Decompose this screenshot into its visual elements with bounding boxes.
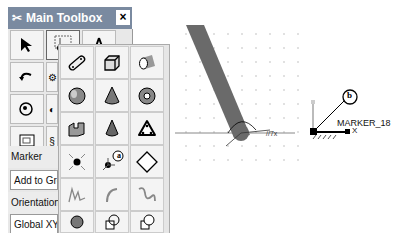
sphere-button[interactable]	[60, 79, 94, 112]
marker-x-label: X	[352, 126, 357, 135]
spline-button[interactable]	[130, 178, 164, 211]
marker-label: Marker	[8, 146, 58, 168]
marker-x-handle	[345, 129, 350, 134]
point-button[interactable]	[60, 145, 94, 178]
revolution-button[interactable]	[95, 112, 129, 145]
orientation-label: Orientation	[8, 192, 58, 214]
render-icon	[17, 99, 37, 119]
extrusion-button[interactable]	[60, 112, 94, 145]
view-button[interactable]: ◐	[46, 94, 58, 124]
marker-y-handle	[311, 100, 315, 104]
box-button[interactable]	[95, 46, 129, 79]
link-icon: ⚙	[48, 72, 57, 83]
render-button[interactable]	[10, 94, 44, 124]
box-icon	[101, 52, 123, 74]
select-arrow-icon	[18, 36, 36, 54]
ground-hatch	[313, 135, 336, 139]
polyline-icon	[66, 184, 88, 206]
spline-icon	[136, 184, 158, 206]
callout-a: a	[117, 151, 121, 160]
extrusion-icon	[66, 118, 88, 140]
plane-button[interactable]	[130, 145, 164, 178]
boolean-subtract-icon	[138, 213, 156, 231]
undo-icon	[17, 67, 37, 87]
add-to-group-select[interactable]: Add to Grou	[10, 170, 58, 190]
link-button[interactable]: ⚙	[46, 62, 58, 92]
marker-button[interactable]: a	[95, 145, 129, 178]
torus-button[interactable]	[130, 79, 164, 112]
polyline-button[interactable]	[60, 178, 94, 211]
cylinder-button[interactable]	[130, 46, 164, 79]
toolbox-titlebar[interactable]: ✂Main Toolbox ×	[8, 7, 132, 29]
link-geometry-button[interactable]	[60, 46, 94, 79]
plane-icon	[135, 150, 159, 174]
plate-icon	[136, 118, 158, 140]
boolean-subtract-button[interactable]	[130, 211, 164, 233]
boolean-intersect-button[interactable]	[95, 211, 129, 233]
point-icon	[66, 151, 88, 173]
marker-name-label: MARKER_18	[337, 118, 391, 128]
plate-button[interactable]	[130, 112, 164, 145]
link-geometry-icon	[66, 52, 88, 74]
joint-x-label: //7x	[266, 130, 278, 137]
boolean-union-icon	[68, 213, 86, 231]
arc-icon	[101, 184, 123, 206]
boolean-intersect-icon	[103, 213, 121, 231]
close-button[interactable]: ×	[116, 10, 130, 25]
cone-button[interactable]	[95, 79, 129, 112]
undo-button[interactable]	[10, 62, 44, 92]
callout-b: b	[347, 90, 352, 100]
marker-origin[interactable]	[310, 128, 317, 135]
modeling-canvas[interactable]: //7x	[170, 0, 395, 233]
boolean-union-button[interactable]	[60, 211, 94, 233]
spring-icon: §	[49, 136, 55, 147]
toolbox-title: Main Toolbox	[26, 11, 102, 25]
cylinder-icon	[136, 52, 158, 74]
torus-icon	[136, 85, 158, 107]
orientation-select[interactable]: Global XY	[10, 214, 58, 233]
arc-button[interactable]	[95, 178, 129, 211]
select-button[interactable]	[10, 30, 44, 60]
revolution-icon	[101, 118, 123, 140]
sphere-icon	[66, 85, 88, 107]
cone-icon	[101, 85, 123, 107]
view-icon: ◐	[49, 104, 55, 115]
toolbox-icon: ✂	[12, 11, 22, 25]
marker-icon	[99, 149, 125, 175]
link-body	[186, 25, 250, 138]
